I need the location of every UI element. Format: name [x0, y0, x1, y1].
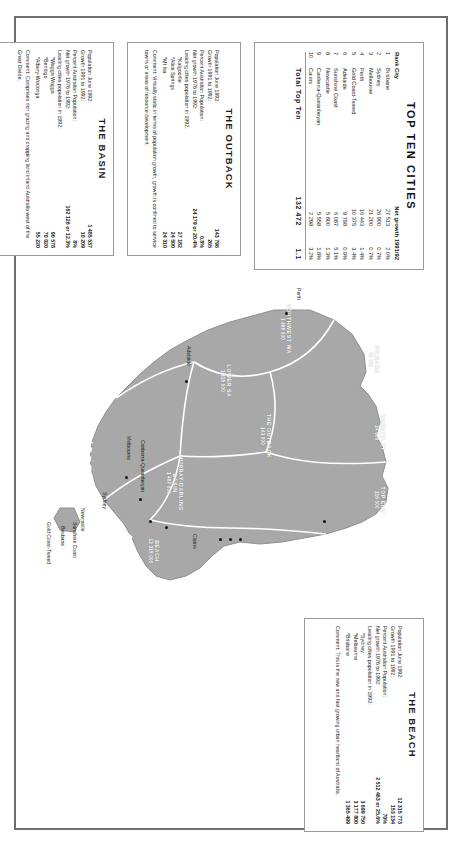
city-dot-canberra	[139, 498, 142, 501]
cell-percent: 0.9%	[340, 226, 349, 260]
cell-net-growth: 5 558	[315, 172, 324, 226]
cell-net-growth: 10 375	[349, 172, 358, 226]
city-dot-sydney	[149, 520, 152, 523]
top-ten-table: Rank City Net growth 1991/92 1Brisbane27…	[293, 52, 400, 260]
stat-row: Percent Australian Population:70%	[381, 626, 388, 824]
stat-row: Growth 1991 to 1992:10 209	[78, 50, 85, 248]
stat-label: Percent Australian Population:	[198, 50, 205, 121]
leading-cities-list: *Wagga Wagga90 578*Bendigo70 020*Albury-…	[34, 50, 56, 248]
region-value: 1 315 000	[220, 370, 225, 392]
cell-city: Brisbane	[383, 68, 392, 172]
table-row: 4Perth16 4431.4%	[358, 52, 367, 260]
panel-the-basin: THE BASINPopulation June 1992:1 485 537G…	[0, 42, 114, 256]
city-dot-brisbane	[229, 538, 232, 541]
region-value: 116 000	[374, 491, 379, 509]
stat-label: Population June 1992:	[213, 50, 220, 103]
stat-row: Net growth 1976 to 1992:24 179 or 20.4%	[190, 50, 197, 248]
cell-percent: 0.7%	[375, 226, 384, 260]
cell-city: Sydney	[375, 68, 384, 172]
panel-comment: Comment: Virtually static in terms of po…	[143, 50, 158, 248]
stat-value: 162 126 or 12.3%	[63, 196, 70, 248]
cell-percent: 1.4%	[358, 226, 367, 260]
leading-city-name: *Kalgoorlie	[176, 50, 183, 83]
leading-city-value: 3 177 800	[351, 790, 358, 824]
panel-comment: Comment: This is the new and fast growin…	[333, 626, 340, 824]
top-ten-cities-panel: TOP TEN CITIES Rank City Net growth 1991…	[254, 42, 424, 270]
cell-percent: 1.3%	[323, 226, 332, 260]
stat-label: Leading cities population in 1992:	[56, 50, 63, 129]
total-label: Total Top Ten	[293, 68, 302, 172]
table-total-row: Total Top Ten 132 472 1.1	[293, 52, 302, 260]
region-value: 46 600	[368, 352, 373, 367]
cell-percent: 0.7%	[366, 226, 375, 260]
region-label: PILBARA	[374, 346, 380, 373]
stat-value: 10 209	[78, 222, 85, 248]
city-dot-gold-coast	[219, 538, 222, 541]
stat-label: Population June 1992:	[86, 50, 93, 103]
leading-city-value: 90 578	[49, 222, 56, 248]
map-region-southwest-wa: SOUTHWEST WA 1 368 000	[279, 292, 292, 366]
total-net: 132 472	[293, 172, 302, 226]
map-region-top-end: TOP END 116 000	[373, 472, 386, 528]
cell-city: Gold Coast-Tweed	[349, 68, 358, 172]
map-region-murray-darling-basin: MURRAY-DARLING BASIN 1 487 000	[164, 452, 184, 514]
stat-value: 2 512 463 or 25.6%	[373, 767, 380, 824]
stat-label: Growth 1991 to 1992:	[78, 50, 85, 101]
region-label: LOWER SA	[226, 365, 232, 398]
table-row: 9Canberra-Queanbeyan5 5581.8%	[315, 52, 324, 260]
stat-label: Net growth 1976 to 1992:	[190, 50, 197, 109]
cell-percent: 3.2%	[306, 226, 315, 260]
region-label: MURRAY-DARLING BASIN	[172, 455, 184, 511]
table-separator	[302, 52, 306, 260]
region-value: 24 600	[374, 425, 379, 440]
region-label: KIMBERLEY	[380, 415, 386, 451]
leading-city-name: *Mt Isa	[161, 50, 168, 73]
total-pct: 1.1	[293, 226, 302, 260]
cell-city: Sunshine Coast	[332, 68, 341, 172]
map-region-pilbara: PILBARA 46 600	[367, 330, 380, 390]
leading-city-name: *Bendigo	[41, 50, 48, 79]
map-region-lower-sa: LOWER SA 1 315 000	[219, 350, 232, 412]
leading-cities-list: *Kalgoorlie27 182*Alice Springs24 500*Mt…	[161, 50, 183, 248]
stat-label: Growth 1991 to 1992:	[205, 50, 212, 101]
leading-city-name: *Alice Springs	[168, 50, 175, 90]
stat-value: 265	[205, 229, 212, 248]
stat-label: Net growth 1976 to 1992:	[373, 626, 380, 685]
stat-row: Net growth 1976 to 1992:2 512 463 or 25.…	[373, 626, 380, 824]
cell-percent: 2.0%	[383, 226, 392, 260]
poster-frame: TOP TEN CITIES Rank City Net growth 1991…	[0, 0, 462, 846]
city-dot-perth	[285, 312, 288, 315]
leading-city-row: *Kalgoorlie27 182	[176, 50, 183, 248]
table-row: 1Brisbane27 5132.0%	[383, 52, 392, 260]
top-ten-title: TOP TEN CITIES	[405, 52, 417, 260]
cell-rank: 1	[383, 52, 392, 68]
region-label: TOP END	[380, 486, 386, 513]
leading-city-row: *Sydney3 699 750	[359, 626, 366, 824]
leading-city-value: 27 182	[176, 222, 183, 248]
stat-value: 12 315 773	[396, 787, 403, 824]
cell-net-growth: 16 443	[358, 172, 367, 226]
table-row: 7Sunshine Coast6 0875.1%	[332, 52, 341, 260]
stat-row: Percent Australian Population:0.8%	[198, 50, 205, 248]
cell-city: Newcastle	[323, 68, 332, 172]
table-row: 3Melbourne21 2000.7%	[366, 52, 375, 260]
city-label-newcastle: Newcastle	[80, 508, 86, 532]
poster-canvas: TOP TEN CITIES Rank City Net growth 1991…	[0, 0, 462, 846]
city-label-brisbane: Brisbane	[60, 526, 66, 546]
cell-net-growth: 9 798	[340, 172, 349, 226]
region-value: 143 000	[260, 427, 265, 445]
leading-city-row: *Melbourne3 177 800	[351, 626, 358, 824]
table-row: 5Gold Coast-Tweed10 3753.4%	[349, 52, 358, 260]
city-label-perth: Perth	[296, 288, 302, 300]
leading-city-value: 70 020	[41, 222, 48, 248]
panel-title: THE BEACH	[407, 626, 418, 824]
cell-net-growth: 2 298	[306, 172, 315, 226]
stat-value: 153 134	[388, 795, 395, 824]
stat-value: 24 179 or 20.4%	[190, 199, 197, 248]
leading-city-row: *Albury-Wodonga55 220	[34, 50, 41, 248]
city-label-canberra: Canberra-Queanbeyan	[140, 440, 146, 492]
leading-city-row: *Alice Springs24 500	[168, 50, 175, 248]
region-label: THE OUTBACK	[266, 414, 272, 458]
stat-value: 143 796	[213, 219, 220, 248]
leading-city-name: *Melbourne	[351, 626, 358, 660]
